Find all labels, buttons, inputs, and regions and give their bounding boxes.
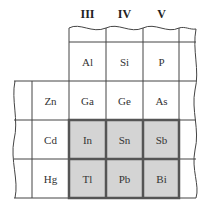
element-cell: Al — [69, 42, 106, 81]
highlighted-element-cell: Sn — [106, 120, 143, 159]
element-cell: P — [143, 42, 180, 81]
highlighted-element-cell: Sb — [143, 120, 180, 159]
highlighted-element-cell: Tl — [69, 159, 106, 198]
group-header-iv: IV — [106, 7, 143, 22]
highlighted-element-cell: Pb — [106, 159, 143, 198]
group-header-v: V — [143, 7, 180, 22]
element-cell: Ga — [69, 81, 106, 120]
element-cell: As — [143, 81, 180, 120]
row-label-cell: Cd — [32, 120, 69, 159]
row-label-cell: Hg — [32, 159, 69, 198]
row-label-cell: Zn — [32, 81, 69, 120]
highlighted-element-cell: Bi — [143, 159, 180, 198]
element-cell: Ge — [106, 81, 143, 120]
element-cell: Si — [106, 42, 143, 81]
highlighted-element-cell: In — [69, 120, 106, 159]
group-header-iii: III — [69, 7, 106, 22]
